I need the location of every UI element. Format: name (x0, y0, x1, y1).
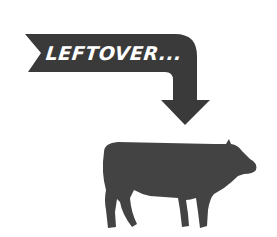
illustration (0, 0, 277, 237)
banner-text: LEFTOVER... (44, 38, 187, 68)
cow-icon (103, 139, 257, 228)
